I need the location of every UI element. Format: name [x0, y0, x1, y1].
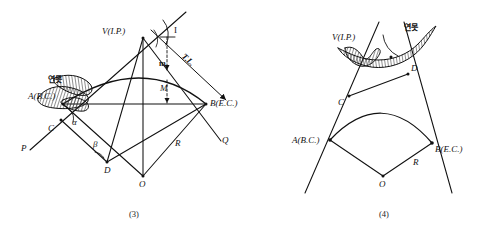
label-4-point-D: D	[411, 64, 418, 73]
curve-AB-4	[330, 113, 432, 143]
dot-O4	[382, 175, 385, 178]
label-3-radius-R: R	[175, 139, 181, 148]
label-4-point-C: C	[338, 98, 344, 107]
label-4-obstacle-pond: 연못	[404, 24, 418, 32]
line-radius-OA	[63, 104, 143, 176]
label-4-point-A: A(B.C.)	[292, 136, 320, 145]
caption-panel-3: (3)	[129, 210, 139, 219]
arc-intersection-angle-I	[163, 20, 168, 45]
line-right-tangent-4	[404, 22, 452, 193]
dot-A3	[62, 103, 65, 106]
label-3-point-Q: Q	[222, 136, 229, 145]
label-3-obstacle-pond: 연못	[48, 76, 62, 84]
line-forward-tangent-VQ	[143, 38, 221, 141]
label-3-dim-m: m	[159, 60, 166, 68]
label-3-point-P: P	[21, 144, 27, 153]
line-left-tangent-4	[305, 22, 379, 193]
dot-B3	[205, 103, 208, 106]
label-3-vertex-V: V(I.P.)	[102, 27, 125, 36]
label-4-point-B: B(E.C.)	[435, 145, 463, 154]
label-3-point-C: C	[48, 124, 54, 133]
dot-O3	[142, 175, 145, 178]
label-4-radius-R: R	[413, 158, 419, 167]
label-3-point-A: A(B.C.)	[28, 92, 56, 101]
line-aux-VD	[107, 38, 143, 162]
figure-canvas: V(I.P.) A(B.C.) B(E.C.) C D O P Q R m M …	[0, 0, 491, 234]
label-3-angle-I: I	[174, 26, 177, 35]
label-3-point-B: B(E.C.)	[210, 99, 238, 108]
label-3-point-D: D	[104, 166, 111, 175]
label-4-center-O: O	[379, 180, 386, 189]
arc-intersection-angle-4	[383, 35, 398, 56]
dot-V3	[142, 37, 145, 40]
dot-C3	[60, 119, 63, 122]
panel-3-geometry	[30, 12, 226, 178]
dot-D3	[106, 161, 109, 164]
dot-A4	[328, 138, 332, 142]
label-3-angle-alpha: α	[72, 118, 77, 127]
line-radius-OA-4	[330, 140, 383, 176]
caption-panel-4: (4)	[379, 210, 389, 219]
label-4-vertex-V: V(I.P.)	[332, 33, 355, 42]
dot-B4	[430, 141, 434, 145]
panel-4-geometry	[305, 22, 452, 193]
line-traverse-CD-4	[349, 74, 408, 96]
dot-D4	[407, 73, 410, 76]
line-traverse-CD	[61, 120, 107, 162]
label-3-center-O: O	[139, 180, 146, 189]
dot-C4	[348, 95, 351, 98]
label-3-dim-M: M	[160, 84, 168, 93]
label-3-angle-beta: β	[93, 140, 97, 149]
line-radius-OB-4	[383, 143, 432, 176]
dot-V4	[390, 56, 393, 59]
